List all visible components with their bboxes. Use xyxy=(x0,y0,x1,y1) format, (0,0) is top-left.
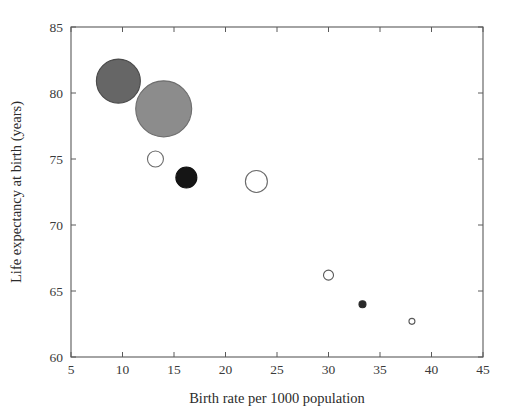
x-tick-label: 25 xyxy=(270,362,284,377)
data-point-bubble xyxy=(147,151,163,167)
x-tick-label: 5 xyxy=(68,362,75,377)
y-tick-label: 65 xyxy=(50,284,64,299)
data-point-bubble xyxy=(96,59,140,103)
y-tick-label: 70 xyxy=(50,218,64,233)
data-point-bubble xyxy=(136,81,192,137)
chart-figure: 51015202530354045 606570758085 Birth rat… xyxy=(0,0,510,415)
y-tick-label: 75 xyxy=(50,152,64,167)
x-tick-label: 10 xyxy=(116,362,130,377)
y-tick-label: 85 xyxy=(50,20,64,35)
x-tick-label: 45 xyxy=(476,362,490,377)
x-tick-label: 15 xyxy=(167,362,181,377)
data-point-bubble xyxy=(409,318,415,324)
x-tick-label: 35 xyxy=(373,362,387,377)
x-tick-label: 30 xyxy=(322,362,336,377)
y-tick-label: 60 xyxy=(50,350,64,365)
data-point-bubble xyxy=(359,301,366,308)
x-axis-label: Birth rate per 1000 population xyxy=(189,390,365,406)
x-tick-label: 20 xyxy=(219,362,233,377)
scatter-plot: 51015202530354045 606570758085 Birth rat… xyxy=(0,0,510,415)
x-tick-label: 40 xyxy=(425,362,439,377)
data-point-bubble xyxy=(245,170,267,192)
figure-background xyxy=(0,0,510,415)
y-axis-label: Life expectancy at birth (years) xyxy=(8,101,25,283)
y-tick-label: 80 xyxy=(50,86,64,101)
data-point-bubble xyxy=(176,167,197,188)
data-point-bubble xyxy=(324,270,334,280)
